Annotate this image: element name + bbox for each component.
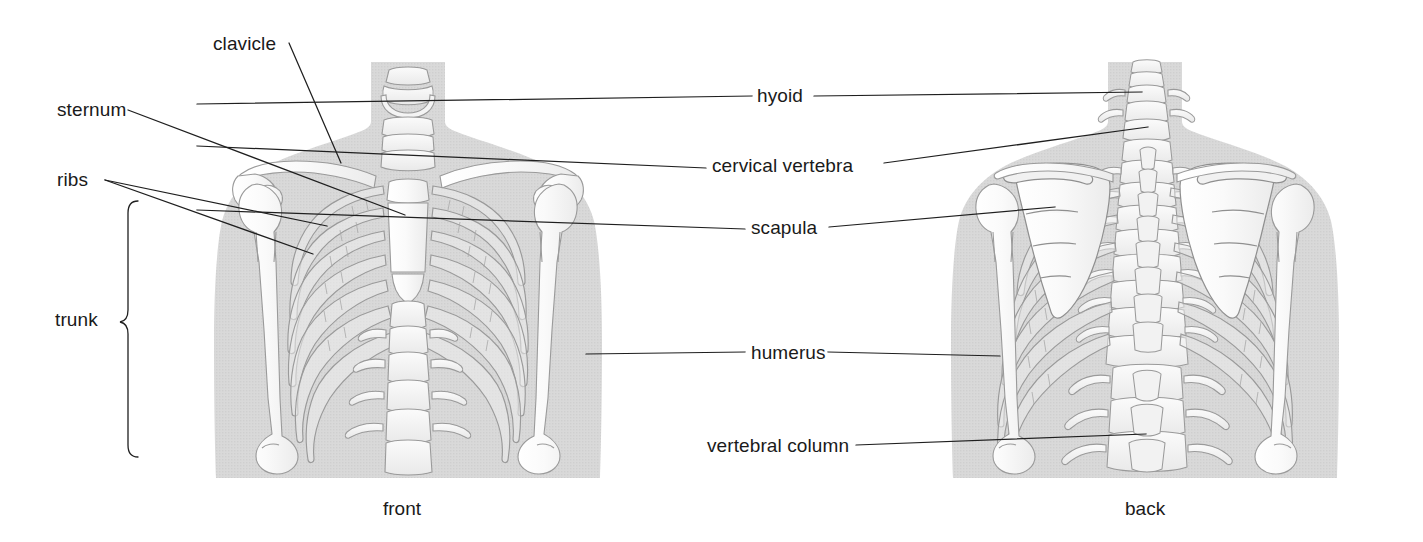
- label-cervical-vertebra: cervical vertebra: [712, 155, 853, 177]
- skeleton-illustration-svg: [0, 0, 1423, 542]
- caption-back: back: [1125, 498, 1165, 520]
- label-humerus: humerus: [751, 342, 826, 364]
- label-clavicle: clavicle: [213, 33, 276, 55]
- label-vertebral-column: vertebral column: [707, 435, 849, 457]
- caption-front: front: [383, 498, 421, 520]
- back-view-figure: [951, 60, 1339, 478]
- label-sternum: sternum: [57, 99, 126, 121]
- leader-line-humerus-front: [586, 352, 745, 354]
- front-sternum: [387, 179, 429, 303]
- label-scapula: scapula: [751, 217, 817, 239]
- leader-line-hyoid-back: [814, 92, 1142, 96]
- front-view-figure: [214, 62, 602, 478]
- skeleton-diagram: clavicle sternum ribs trunk hyoid cervic…: [0, 0, 1423, 542]
- label-trunk: trunk: [55, 309, 98, 331]
- trunk-bracket: [120, 201, 138, 457]
- label-ribs: ribs: [57, 169, 88, 191]
- label-hyoid: hyoid: [757, 85, 803, 107]
- leader-line-hyoid-front: [197, 96, 752, 104]
